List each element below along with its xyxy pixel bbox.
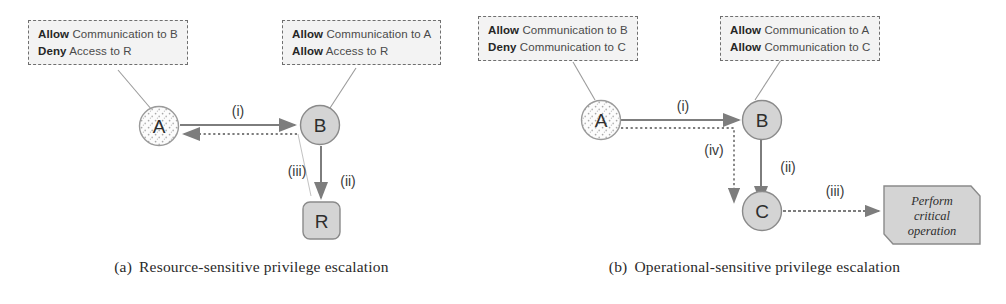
- edge-b-i-label: (i): [677, 98, 689, 114]
- panel-operational-sensitive: (dotted, right then down to C) --> A B C…: [503, 0, 1006, 304]
- policy-line: Allow Communication to A: [292, 26, 431, 43]
- figure-privilege-escalation: A B R (i) (iii) (ii) Allow Communication…: [0, 0, 1006, 304]
- policy-line: Allow Communication to B: [488, 22, 628, 39]
- panel-resource-sensitive: A B R (i) (iii) (ii) Allow Communication…: [0, 0, 503, 304]
- node-b-A-label: A: [595, 110, 608, 131]
- policy-line: Allow Communication to C: [730, 39, 870, 56]
- policy-line: Allow Access to R: [292, 43, 431, 60]
- node-b-C-label: C: [755, 201, 769, 222]
- caption-panel-a: (a)Resource-sensitive privilege escalati…: [0, 258, 503, 276]
- policy-box-a-left: Allow Communication to B Deny Access to …: [28, 20, 188, 65]
- edge-a-i-label: (i): [232, 103, 244, 119]
- note-line-2: critical: [914, 209, 951, 223]
- caption-label: (a): [114, 258, 132, 275]
- edge-a-ii-label: (ii): [340, 173, 356, 189]
- caption-text: Operational-sensitive privilege escalati…: [634, 258, 900, 275]
- policy-box-b-right: Allow Communication to A Allow Communica…: [720, 16, 880, 61]
- edge-b-iv: [621, 128, 734, 202]
- leader-line-policy-b-right: [755, 60, 781, 100]
- leader-line-policy-a-right: [330, 68, 356, 108]
- node-a-B-label: B: [314, 115, 327, 136]
- policy-box-a-right: Allow Communication to A Allow Access to…: [282, 20, 441, 65]
- policy-line: Allow Communication to B: [38, 26, 178, 43]
- caption-panel-b: (b)Operational-sensitive privilege escal…: [503, 258, 1006, 276]
- policy-line: Deny Communication to C: [488, 39, 628, 56]
- caption-text: Resource-sensitive privilege escalation: [139, 258, 389, 275]
- policy-line: Allow Communication to A: [730, 22, 870, 39]
- policy-box-b-left: Allow Communication to B Deny Communicat…: [478, 16, 638, 61]
- policy-line: Deny Access to R: [38, 43, 178, 60]
- note-line-1: Perform: [910, 194, 953, 208]
- edge-b-iv-label: (iv): [704, 142, 723, 158]
- edge-b-iii-label: (iii): [826, 183, 845, 199]
- leader-line-policy-b-left: [573, 62, 595, 100]
- caption-label: (b): [609, 258, 628, 275]
- note-line-3: operation: [908, 224, 957, 238]
- edge-a-iii-label: (iii): [288, 163, 307, 179]
- node-a-R-label: R: [315, 211, 329, 232]
- edge-b-ii-label: (ii): [780, 159, 796, 175]
- node-b-B-label: B: [756, 110, 769, 131]
- node-a-A-label: A: [153, 116, 166, 137]
- leader-line-policy-a-left: [118, 70, 152, 110]
